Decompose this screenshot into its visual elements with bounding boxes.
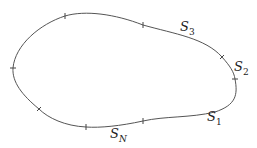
label-base: S bbox=[110, 126, 119, 141]
label-subscript: 3 bbox=[189, 27, 195, 37]
label-base: S bbox=[180, 19, 189, 34]
label-subscript: 2 bbox=[243, 67, 249, 77]
label-base: S bbox=[234, 59, 243, 74]
label-subscript: N bbox=[119, 134, 127, 144]
label-s1: S1 bbox=[207, 110, 222, 127]
label-subscript: 1 bbox=[216, 117, 222, 127]
closed-curve bbox=[13, 13, 236, 127]
label-s2: S2 bbox=[234, 60, 249, 77]
label-s3: S3 bbox=[180, 20, 195, 37]
tick-marks bbox=[10, 13, 238, 130]
label-base: S bbox=[207, 109, 216, 124]
label-sn: SN bbox=[110, 127, 127, 144]
